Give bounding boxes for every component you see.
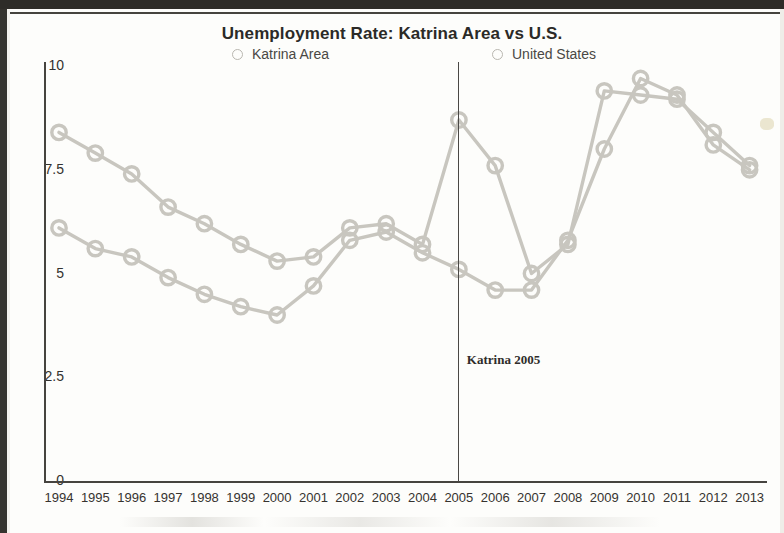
chart-plot-area	[0, 0, 784, 533]
series-points-katrina-area	[52, 84, 757, 281]
unemployment-line-chart: Unemployment Rate: Katrina Area vs U.S. …	[0, 0, 784, 533]
katrina-2005-vertical-line	[458, 62, 459, 482]
series-line-katrina-area	[59, 91, 750, 274]
series-polyline	[59, 91, 750, 274]
katrina-2005-annotation-label: Katrina 2005	[467, 352, 540, 368]
scanned-page: Unemployment Rate: Katrina Area vs U.S. …	[0, 0, 784, 533]
